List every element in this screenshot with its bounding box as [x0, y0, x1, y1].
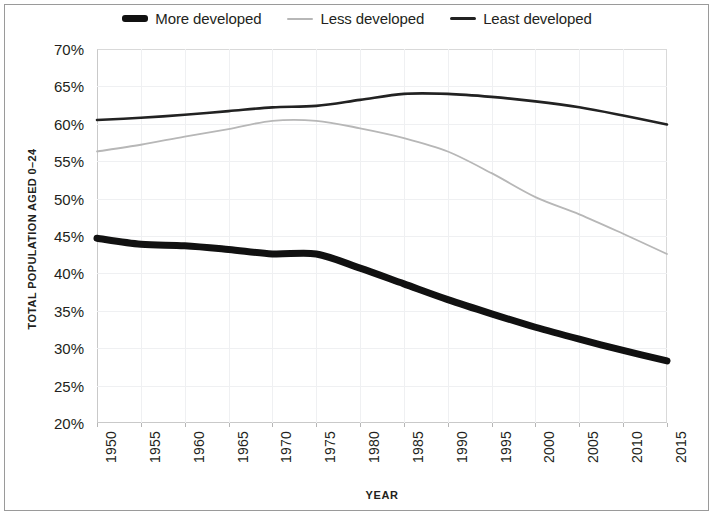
- x-tick-label: 2000: [541, 431, 557, 463]
- series-line-less-developed: [97, 120, 667, 254]
- y-tick-label: 60%: [18, 116, 84, 131]
- x-tick-label: 1970: [278, 431, 294, 463]
- x-tick-mark: [141, 423, 142, 427]
- x-tick-mark: [272, 423, 273, 427]
- x-tick-mark: [97, 423, 98, 427]
- y-tick-label: 65%: [18, 79, 84, 94]
- x-axis-title: YEAR: [97, 489, 667, 501]
- x-tick-mark: [185, 423, 186, 427]
- x-axis-ticks: 1950195519601965197019751980198519901995…: [97, 423, 667, 493]
- y-tick-label: 25%: [18, 378, 84, 393]
- x-tick-label: 2015: [673, 431, 689, 463]
- y-tick-label: 50%: [18, 191, 84, 206]
- x-tick-mark: [492, 423, 493, 427]
- x-tick-label: 1990: [454, 431, 470, 463]
- plot-area: 70%65%60%55%50%45%40%35%30%25%20% 195019…: [97, 49, 667, 423]
- x-tick-label: 2005: [585, 431, 601, 463]
- y-tick-label: 70%: [18, 42, 84, 57]
- y-tick-label: 30%: [18, 341, 84, 356]
- x-tick-mark: [404, 423, 405, 427]
- x-tick-label: 1960: [191, 431, 207, 463]
- x-tick-mark: [360, 423, 361, 427]
- x-tick-label: 1985: [410, 431, 426, 463]
- x-tick-mark: [667, 423, 668, 427]
- series-line-more-developed: [97, 238, 667, 361]
- x-tick-mark: [229, 423, 230, 427]
- x-tick-mark: [579, 423, 580, 427]
- y-tick-label: 35%: [18, 303, 84, 318]
- y-tick-label: 45%: [18, 229, 84, 244]
- x-tick-label: 2010: [629, 431, 645, 463]
- x-tick-label: 1975: [322, 431, 338, 463]
- x-tick-label: 1980: [366, 431, 382, 463]
- x-tick-label: 1965: [235, 431, 251, 463]
- x-tick-mark: [623, 423, 624, 427]
- y-tick-label: 55%: [18, 154, 84, 169]
- x-tick-mark: [316, 423, 317, 427]
- x-tick-label: 1955: [147, 431, 163, 463]
- y-tick-label: 20%: [18, 416, 84, 431]
- y-tick-label: 40%: [18, 266, 84, 281]
- x-tick-label: 1995: [498, 431, 514, 463]
- chart-figure: More developed Less developed Least deve…: [0, 0, 714, 516]
- x-tick-mark: [448, 423, 449, 427]
- data-series-layer: [97, 49, 667, 423]
- series-line-least-developed: [97, 93, 667, 124]
- x-tick-mark: [535, 423, 536, 427]
- x-tick-label: 1950: [103, 431, 119, 463]
